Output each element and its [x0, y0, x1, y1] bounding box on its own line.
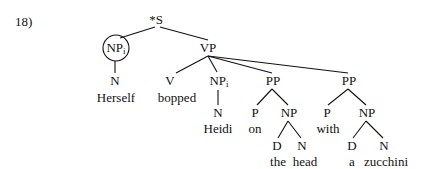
node-p2: P: [323, 106, 330, 119]
node-v: V: [165, 74, 174, 87]
node-np-subject: NPi: [106, 41, 125, 54]
word-zucchini: zucchini: [364, 155, 408, 168]
node-n-subject: N: [110, 74, 119, 87]
word-with: with: [316, 122, 339, 135]
word-head: head: [293, 155, 318, 168]
node-s: *S: [149, 13, 163, 26]
word-on: on: [249, 122, 262, 135]
word-herself: Herself: [97, 91, 135, 104]
node-n2: N: [379, 139, 388, 152]
word-bopped: bopped: [158, 91, 196, 104]
word-the: the: [270, 155, 286, 168]
node-d2: D: [347, 139, 356, 152]
node-n-object: N: [213, 106, 222, 119]
node-np-pp2: NP: [359, 106, 376, 119]
node-pp1: PP: [266, 74, 280, 87]
example-number: 18): [15, 15, 32, 28]
node-np-object: NPi: [209, 74, 228, 87]
word-a: a: [349, 155, 355, 168]
node-n1: N: [297, 139, 306, 152]
node-d1: D: [272, 139, 281, 152]
node-p1: P: [251, 106, 258, 119]
node-np-pp1: NP: [281, 106, 298, 119]
node-vp: VP: [200, 41, 217, 54]
word-heidi: Heidi: [204, 122, 233, 135]
node-pp2: PP: [342, 74, 356, 87]
